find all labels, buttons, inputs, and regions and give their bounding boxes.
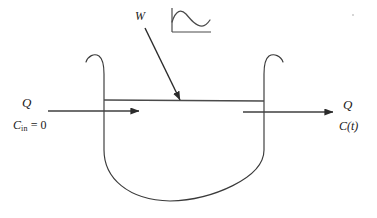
inset-response-curve [172,11,210,26]
scan-speck [352,14,354,16]
outflow-rate-label: Q [343,98,352,111]
diagram-canvas: Q Cin = 0 Q C(t) W [0,0,377,218]
inflow-concentration-label: Cin = 0 [13,119,46,133]
outflow-concentration-label: C(t) [339,120,358,132]
mass-input-label: W [135,10,145,22]
inflow-concentration-value: = 0 [28,118,47,132]
tank-schematic [0,0,377,218]
inflow-rate-label: Q [22,96,31,109]
liquid-surface-line [104,100,264,101]
mass-input-arrow [145,28,180,100]
tank-outline [86,55,283,201]
inset-chart [172,8,211,32]
inflow-concentration-symbol: C [13,118,21,132]
inflow-concentration-subscript: in [21,124,28,133]
